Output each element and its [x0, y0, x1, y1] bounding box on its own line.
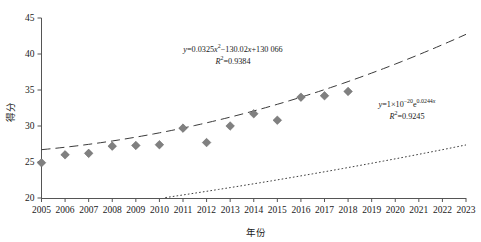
- y-tick-label: 25: [25, 157, 35, 167]
- x-tick-label: 2018: [339, 205, 358, 215]
- x-tick-label: 2005: [32, 205, 51, 215]
- x-axis-label: 年份: [246, 227, 266, 238]
- data-point-marker: [179, 124, 188, 133]
- x-tick-label: 2021: [409, 205, 428, 215]
- y-tick-label: 45: [25, 13, 35, 23]
- x-tick-label: 2013: [221, 205, 240, 215]
- y-tick-label: 35: [25, 85, 35, 95]
- data-point-marker: [61, 151, 70, 160]
- data-points: [37, 87, 352, 167]
- y-axis-label: 得分: [5, 102, 16, 122]
- data-point-marker: [132, 141, 141, 150]
- exponential-r2-text: R2=0.9245: [352, 111, 462, 123]
- data-point-marker: [202, 138, 211, 147]
- data-point-marker: [226, 122, 235, 131]
- y-axis-ticks: 202530354045: [25, 13, 42, 203]
- y-tick-label: 40: [25, 49, 35, 59]
- quadratic-equation-annotation: y=0.0325x2−130.02x+130 066 R2=0.9384: [138, 44, 328, 68]
- x-tick-label: 2023: [457, 205, 476, 215]
- x-tick-label: 2022: [433, 205, 452, 215]
- x-tick-label: 2006: [56, 205, 75, 215]
- quadratic-equation-text: y=0.0325x2−130.02x+130 066: [138, 44, 328, 56]
- exponential-trendline: [165, 145, 466, 198]
- data-point-marker: [297, 93, 306, 102]
- quadratic-r2-text: R2=0.9384: [138, 56, 328, 68]
- x-tick-label: 2012: [197, 205, 216, 215]
- x-tick-label: 2019: [362, 205, 381, 215]
- axis-titles: 得分 年份: [5, 102, 266, 238]
- x-tick-label: 2008: [103, 205, 122, 215]
- x-tick-label: 2009: [126, 205, 145, 215]
- x-tick-label: 2007: [79, 205, 98, 215]
- data-point-marker: [108, 142, 117, 151]
- data-point-marker: [84, 149, 93, 158]
- score-year-trend-chart: 202530354045 200520062007200820092010201…: [0, 0, 481, 242]
- y-tick-label: 20: [25, 193, 35, 203]
- x-tick-label: 2014: [244, 205, 263, 215]
- x-tick-label: 2010: [150, 205, 169, 215]
- data-point-marker: [155, 140, 164, 149]
- x-tick-label: 2020: [386, 205, 405, 215]
- data-point-marker: [273, 116, 282, 125]
- data-point-marker: [344, 87, 353, 96]
- exponential-equation-text: y=1×10−20e0.0244x: [352, 99, 462, 111]
- x-tick-label: 2011: [174, 205, 193, 215]
- y-tick-label: 30: [25, 121, 35, 131]
- data-point-marker: [37, 158, 46, 167]
- x-tick-label: 2017: [315, 205, 334, 215]
- x-axis-ticks: 2005200620072008200920102011201220132014…: [32, 198, 476, 215]
- data-point-marker: [249, 109, 258, 118]
- data-point-marker: [320, 91, 329, 100]
- x-tick-label: 2015: [268, 205, 287, 215]
- x-tick-label: 2016: [291, 205, 310, 215]
- exponential-equation-annotation: y=1×10−20e0.0244x R2=0.9245: [352, 99, 462, 123]
